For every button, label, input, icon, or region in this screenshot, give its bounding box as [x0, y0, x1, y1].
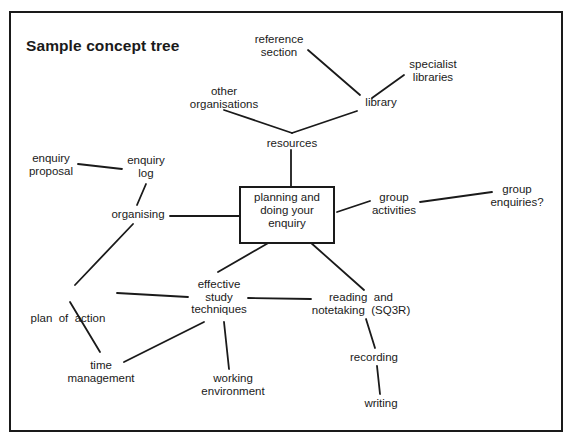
- node-label: reading and: [312, 291, 410, 304]
- node-resources: resources: [267, 137, 318, 150]
- edge-study-reading: [248, 298, 311, 299]
- node-time-management: time management: [67, 359, 134, 384]
- edge-center-group-activities: [337, 201, 370, 212]
- node-label: group: [490, 183, 543, 196]
- node-label: recording: [350, 351, 398, 364]
- concept-tree-diagram: Sample concept tree reference section sp…: [0, 0, 574, 446]
- edge-center-reading: [310, 242, 364, 290]
- node-label: other: [190, 85, 258, 98]
- node-label: enquiry: [127, 154, 165, 167]
- node-label: management: [67, 372, 134, 385]
- node-label: group: [372, 191, 416, 204]
- node-label: enquiry: [29, 152, 73, 165]
- node-organising: organising: [111, 208, 164, 221]
- central-node-label: doing your: [241, 204, 333, 217]
- node-plan-of-action: plan of action: [31, 287, 106, 350]
- central-node: planning and doing your enquiry: [239, 186, 335, 244]
- edge-plan-study: [117, 293, 188, 297]
- edge-specialist-library: [372, 75, 404, 98]
- node-effective-study-techniques: effective study techniques: [191, 278, 247, 316]
- node-library: library: [365, 96, 396, 109]
- node-writing: writing: [364, 397, 397, 410]
- node-label: study: [191, 291, 247, 304]
- node-reference-section: reference section: [255, 33, 304, 58]
- edge-reference-library: [308, 50, 360, 95]
- edge-center-study: [218, 242, 270, 272]
- node-enquiry-proposal: enquiry proposal: [29, 152, 73, 177]
- node-enquiry-log: enquiry log: [127, 154, 165, 179]
- edge-organising-plan: [75, 224, 133, 285]
- node-label: log: [127, 167, 165, 180]
- node-label: environment: [201, 385, 264, 398]
- node-recording: recording: [350, 351, 398, 364]
- node-label: specialist: [409, 58, 456, 71]
- node-label: working: [201, 372, 264, 385]
- node-label: reference: [255, 33, 304, 46]
- edge-proposal-log: [78, 164, 122, 169]
- edge-other-resources: [224, 110, 292, 133]
- edge-log-organising: [137, 184, 146, 205]
- node-label: library: [365, 96, 396, 109]
- edge-study-time: [124, 322, 204, 362]
- node-label: effective: [191, 278, 247, 291]
- node-other-organisations: other organisations: [190, 85, 258, 110]
- node-label: enquiries?: [490, 196, 543, 209]
- edge-study-working: [224, 322, 229, 369]
- node-label: notetaking (SQ3R): [312, 304, 410, 317]
- node-label: organising: [111, 208, 164, 221]
- node-label: writing: [364, 397, 397, 410]
- node-label: section: [255, 46, 304, 59]
- edge-recording-writing: [377, 366, 380, 394]
- node-label: activities: [372, 204, 416, 217]
- node-label: organisations: [190, 98, 258, 111]
- node-label: techniques: [191, 303, 247, 316]
- node-label: libraries: [409, 71, 456, 84]
- edge-reading-recording: [366, 319, 375, 348]
- node-reading-and-notetaking: reading and notetaking (SQ3R): [312, 291, 410, 316]
- central-node-label: enquiry: [241, 217, 333, 230]
- edge-activities-enquiries: [420, 192, 492, 202]
- edge-library-resources: [292, 111, 357, 133]
- node-specialist-libraries: specialist libraries: [409, 58, 456, 83]
- node-label: time: [67, 359, 134, 372]
- node-label: plan of action: [31, 312, 106, 325]
- diagram-title: Sample concept tree: [26, 37, 180, 55]
- node-label: resources: [267, 137, 318, 150]
- node-working-environment: working environment: [201, 372, 264, 397]
- central-node-label: planning and: [241, 191, 333, 204]
- node-group-enquiries: group enquiries?: [490, 183, 543, 208]
- node-group-activities: group activities: [372, 191, 416, 216]
- node-label: proposal: [29, 165, 73, 178]
